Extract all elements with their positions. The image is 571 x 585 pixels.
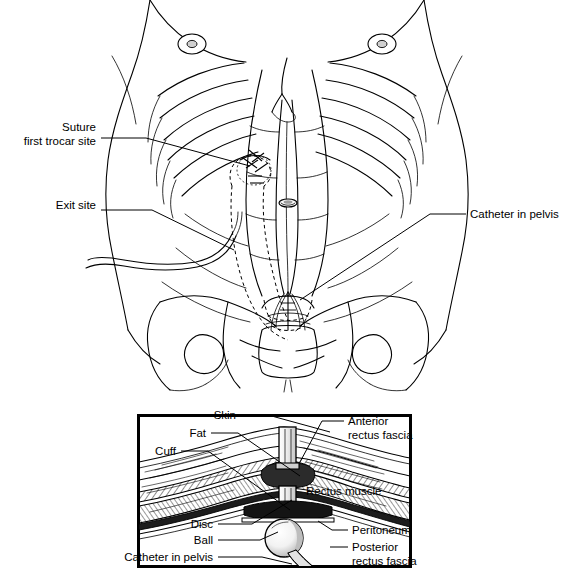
inset-label-fat: Fat: [189, 427, 206, 439]
bladder: [259, 326, 317, 393]
inset-label-posterior-fascia-line2: rectus fascia: [352, 555, 417, 567]
inset-label-cuff: Cuff: [155, 445, 177, 457]
rectus-abdominis-right: [290, 70, 328, 296]
inset-label-anterior-fascia-line1: Anterior: [348, 415, 388, 427]
leader-catheter-pelvis: [300, 214, 466, 300]
sternum: [272, 58, 295, 122]
torso-label-suture: Suture first trocar site: [24, 121, 96, 147]
label-exit-site: Exit site: [56, 199, 96, 211]
medical-illustration: Suture first trocar site Exit site Cathe…: [0, 0, 571, 585]
label-suture-line1: Suture: [62, 121, 96, 133]
inset-label-disc: Disc: [191, 518, 214, 530]
umbilicus: [279, 199, 297, 207]
nipple-right: [368, 34, 396, 54]
torso-illustration: Suture first trocar site Exit site Cathe…: [24, 0, 559, 392]
inset-label-rectus-muscle: Rectus muscle: [306, 485, 381, 497]
leader-exit-site: [101, 210, 234, 250]
suture-marks: [237, 150, 271, 185]
leader-lines-torso: [101, 138, 466, 300]
inset-label-anterior-fascia-line2: rectus fascia: [348, 429, 413, 441]
leader-suture: [101, 138, 250, 166]
inset-label-skin: Skin: [214, 409, 236, 421]
inset-label-catheter-in-pelvis: Catheter in pelvis: [124, 551, 213, 563]
catheter-tip-in-pelvis: [264, 292, 312, 332]
rib-cage-right: [316, 63, 426, 218]
inset-label-posterior-fascia-line1: Posterior: [352, 541, 398, 553]
oblique-muscle-lines: [162, 214, 412, 322]
inset-label-ball: Ball: [194, 534, 213, 546]
figure-root: Suture first trocar site Exit site Cathe…: [0, 0, 571, 585]
label-catheter-in-pelvis: Catheter in pelvis: [470, 208, 559, 220]
inset-label-peritoneum: Peritoneum: [352, 524, 411, 536]
torso-outline: [106, 0, 468, 364]
cross-section-inset: Skin Fat Cuff Anterior rectus fascia Rec…: [124, 409, 417, 575]
rib-cage-left: [148, 63, 258, 218]
linea-alba: [286, 122, 288, 296]
label-suture-line2: first trocar site: [24, 135, 96, 147]
nipple-left: [178, 34, 206, 54]
